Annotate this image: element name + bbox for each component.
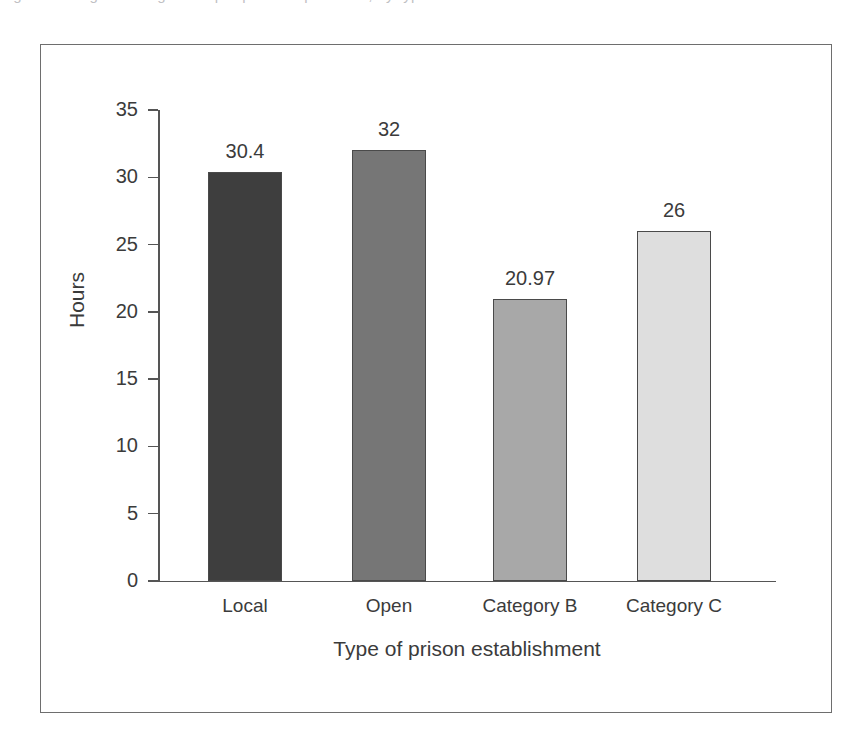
- x-category-label: Local: [165, 595, 325, 617]
- bar-value-label: 30.4: [170, 140, 320, 163]
- bar-local: [208, 172, 282, 581]
- chart-canvas: Figure Average working hours per prisone…: [0, 0, 865, 735]
- y-tick-mark: [148, 446, 158, 448]
- y-tick-mark: [148, 378, 158, 380]
- x-category-label: Category B: [450, 595, 610, 617]
- x-axis-title: Type of prison establishment: [158, 637, 776, 661]
- y-tick-label-text: 30: [78, 166, 138, 186]
- y-tick-label: 5: [78, 503, 138, 523]
- y-tick-mark: [148, 177, 158, 179]
- bar-value-label: 32: [314, 118, 464, 141]
- y-tick-mark: [148, 109, 158, 111]
- bar-open: [352, 150, 426, 581]
- y-tick-label-text: 15: [78, 368, 138, 388]
- y-axis-title: Hours: [65, 230, 89, 370]
- bar-category-c: [637, 231, 711, 581]
- y-tick-mark: [148, 513, 158, 515]
- y-tick-label: 0: [78, 570, 138, 590]
- y-tick-label-text: 0: [78, 570, 138, 590]
- y-tick-label-text: 35: [78, 99, 138, 119]
- bar-category-b: [493, 299, 567, 581]
- y-tick-label: 15: [78, 368, 138, 388]
- y-axis-line: [158, 110, 160, 582]
- bar-value-label: 20.97: [455, 267, 605, 290]
- y-tick-label-text: 5: [78, 503, 138, 523]
- x-category-label: Category C: [594, 595, 754, 617]
- y-tick-label: 30: [78, 166, 138, 186]
- bar-value-label: 26: [599, 199, 749, 222]
- x-category-label: Open: [309, 595, 469, 617]
- y-tick-mark: [148, 244, 158, 246]
- plot-area: 05101520253035 Hours 30.43220.9726 Local…: [0, 0, 865, 735]
- y-tick-label-text: 10: [78, 435, 138, 455]
- y-tick-label: 10: [78, 435, 138, 455]
- y-tick-mark: [148, 311, 158, 313]
- y-tick-label: 35: [78, 99, 138, 119]
- y-tick-mark: [148, 580, 158, 582]
